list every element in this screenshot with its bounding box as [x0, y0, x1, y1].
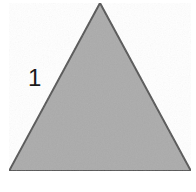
triangle-figure-svg [0, 0, 196, 192]
left-side-length-label: 1 [28, 66, 41, 90]
figure-canvas: 1 [0, 0, 196, 192]
